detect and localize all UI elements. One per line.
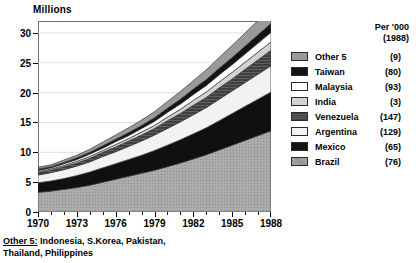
x-tick-major bbox=[116, 212, 117, 217]
legend-header: Per '000 (1988) bbox=[291, 22, 409, 44]
x-tick-minor bbox=[64, 212, 65, 215]
legend-value: (76) bbox=[367, 157, 401, 167]
x-tick-minor bbox=[180, 212, 181, 215]
legend-value: (9) bbox=[367, 52, 401, 62]
x-tick-major bbox=[193, 212, 194, 217]
legend-value: (93) bbox=[367, 82, 401, 92]
legend-swatch-malaysia bbox=[291, 82, 308, 91]
y-tick-label: 15 bbox=[20, 117, 31, 128]
y-tick-label: 25 bbox=[20, 57, 31, 68]
y-tick-label: 20 bbox=[20, 87, 31, 98]
x-tick-major bbox=[270, 212, 271, 217]
legend-header-line1: Per '000 bbox=[291, 22, 409, 33]
x-tick-label: 1988 bbox=[260, 218, 282, 229]
y-tick-label: 0 bbox=[25, 207, 31, 218]
legend-value: (65) bbox=[367, 142, 401, 152]
legend-row: Malaysia(93) bbox=[291, 79, 418, 94]
legend-label: Argentina bbox=[315, 127, 367, 137]
legend-value: (147) bbox=[367, 112, 401, 122]
x-tick-minor bbox=[245, 212, 246, 215]
x-tick-minor bbox=[129, 212, 130, 215]
legend-label: Other 5 bbox=[315, 52, 367, 62]
legend-row: India(3) bbox=[291, 94, 418, 109]
y-tick-label: 5 bbox=[25, 177, 31, 188]
legend-row: Brazil(76) bbox=[291, 154, 418, 169]
legend-row: Argentina(129) bbox=[291, 124, 418, 139]
x-tick-label: 1970 bbox=[27, 218, 49, 229]
legend-label: India bbox=[315, 97, 367, 107]
legend-swatch-mexico bbox=[291, 142, 308, 151]
x-tick-minor bbox=[51, 212, 52, 215]
x-tick-label: 1976 bbox=[105, 218, 127, 229]
legend-swatch-india bbox=[291, 97, 308, 106]
x-tick-label: 1973 bbox=[66, 218, 88, 229]
x-tick-minor bbox=[142, 212, 143, 215]
legend-label: Mexico bbox=[315, 142, 367, 152]
legend-label: Venezuela bbox=[315, 112, 367, 122]
legend-swatch-taiwan bbox=[291, 67, 308, 76]
legend: Per '000 (1988) Other 5(9)Taiwan(80)Mala… bbox=[291, 22, 418, 169]
legend-value: (129) bbox=[367, 127, 401, 137]
footnote-key: Other 5: bbox=[3, 236, 38, 246]
legend-label: Brazil bbox=[315, 157, 367, 167]
legend-value: (3) bbox=[367, 97, 401, 107]
legend-row: Other 5(9) bbox=[291, 49, 418, 64]
legend-swatch-brazil bbox=[291, 157, 308, 166]
stacked-area-svg bbox=[38, 21, 271, 212]
x-tick-major bbox=[232, 212, 233, 217]
y-tick-label: 10 bbox=[20, 147, 31, 158]
plot-area bbox=[38, 21, 271, 212]
x-axis-labels: 1970197319761979198219851988 bbox=[0, 218, 300, 232]
footnote-line2: Thailand, Philippines bbox=[3, 248, 93, 258]
x-tick-minor bbox=[167, 212, 168, 215]
legend-swatch-other-5 bbox=[291, 52, 308, 61]
x-tick-minor bbox=[103, 212, 104, 215]
footnote: Other 5: Indonesia, S.Korea, Pakistan, T… bbox=[3, 236, 263, 259]
legend-header-line2: (1988) bbox=[291, 33, 409, 44]
x-tick-major bbox=[38, 212, 39, 217]
legend-row: Taiwan(80) bbox=[291, 64, 418, 79]
legend-swatch-venezuela bbox=[291, 112, 308, 121]
x-tick-label: 1979 bbox=[143, 218, 165, 229]
x-tick-minor bbox=[219, 212, 220, 215]
footnote-text: Indonesia, S.Korea, Pakistan, bbox=[38, 236, 166, 246]
x-tick-label: 1982 bbox=[182, 218, 204, 229]
legend-label: Malaysia bbox=[315, 82, 367, 92]
legend-row: Venezuela(147) bbox=[291, 109, 418, 124]
x-tick-label: 1985 bbox=[221, 218, 243, 229]
x-tick-major bbox=[155, 212, 156, 217]
x-tick-major bbox=[77, 212, 78, 217]
x-tick-minor bbox=[90, 212, 91, 215]
legend-label: Taiwan bbox=[315, 67, 367, 77]
x-tick-minor bbox=[258, 212, 259, 215]
legend-value: (80) bbox=[367, 67, 401, 77]
chart-screenshot: Millions 051015202530 197019731976197919… bbox=[0, 0, 418, 263]
x-tick-minor bbox=[206, 212, 207, 215]
y-axis: 051015202530 bbox=[0, 21, 38, 212]
y-axis-title: Millions bbox=[33, 4, 72, 15]
y-tick-label: 30 bbox=[20, 27, 31, 38]
legend-row: Mexico(65) bbox=[291, 139, 418, 154]
legend-swatch-argentina bbox=[291, 127, 308, 136]
